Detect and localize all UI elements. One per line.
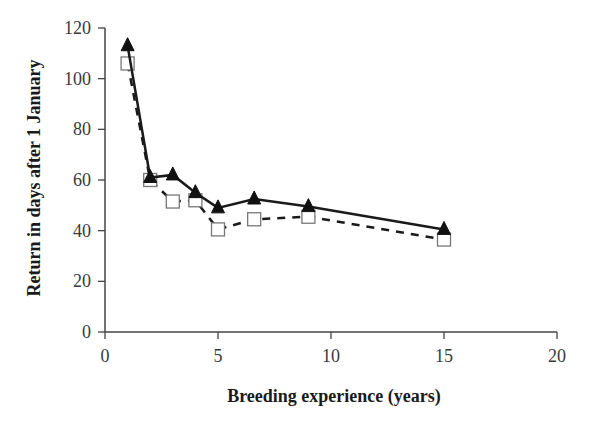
square-marker (212, 223, 225, 236)
y-tick-label: 20 (73, 271, 91, 291)
triangle-marker (166, 167, 179, 180)
triangle-marker (189, 185, 202, 198)
y-tick-label: 100 (64, 69, 91, 89)
x-tick-label: 10 (322, 346, 340, 366)
x-tick-label: 20 (548, 346, 566, 366)
dashed-line (128, 64, 444, 240)
square-marker (248, 213, 261, 226)
y-tick-label: 40 (73, 221, 91, 241)
y-tick-label: 80 (73, 119, 91, 139)
chart: 02040608010012005101520 Breeding experie… (0, 0, 591, 427)
x-tick-label: 15 (435, 346, 453, 366)
x-tick-label: 0 (101, 346, 110, 366)
square-marker (302, 210, 315, 223)
square-marker (166, 195, 179, 208)
y-tick-label: 60 (73, 170, 91, 190)
axes: 02040608010012005101520 (64, 18, 566, 366)
x-axis-title: Breeding experience (years) (227, 386, 441, 407)
y-axis-title: Return in days after 1 January (24, 59, 44, 296)
y-tick-label: 120 (64, 18, 91, 38)
square-marker (438, 233, 451, 246)
y-tick-label: 0 (82, 322, 91, 342)
triangle-marker (121, 38, 134, 51)
x-tick-label: 5 (214, 346, 223, 366)
series-open-squares (121, 57, 450, 246)
triangle-marker (248, 191, 261, 204)
